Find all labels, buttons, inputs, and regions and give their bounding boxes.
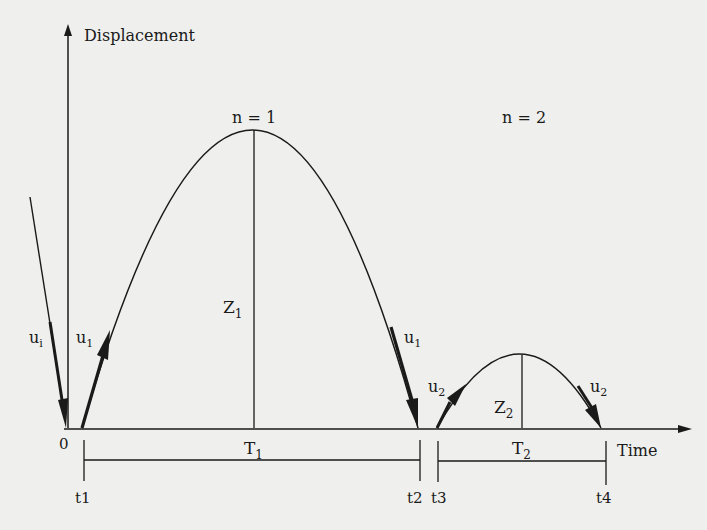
period-2-label: T2 xyxy=(512,438,531,462)
bounce-1-trajectory xyxy=(82,130,418,428)
y-axis-arrow-icon xyxy=(64,24,72,36)
bounce-2-label: n = 2 xyxy=(502,108,546,127)
bounce-2-down-velocity-label: u2 xyxy=(590,377,607,399)
x-axis xyxy=(64,425,692,433)
arrowhead-icon xyxy=(406,398,418,428)
arrowhead-icon xyxy=(58,398,68,428)
time-mark-t1: t1 xyxy=(75,489,91,507)
bounce-1-up-velocity-label: u1 xyxy=(76,328,93,350)
bounce-diagram: Displacement Time 0 n = 1 n = 2 Z1 Z2 T1… xyxy=(0,0,707,530)
time-mark-t4: t4 xyxy=(596,489,612,507)
time-mark-t2: t2 xyxy=(407,489,423,507)
y-axis xyxy=(64,24,72,428)
x-axis-arrow-icon xyxy=(678,425,692,433)
incident-velocity-arrow xyxy=(30,197,68,428)
bounce-2-height-label: Z2 xyxy=(494,397,513,421)
arrowhead-icon xyxy=(585,404,601,428)
incident-velocity-label: ui xyxy=(29,328,43,350)
arrowhead-icon xyxy=(97,330,110,360)
bounce-2-up-velocity-label: u2 xyxy=(428,377,445,399)
bounce-1-label: n = 1 xyxy=(232,108,276,127)
period-1-label: T1 xyxy=(244,438,263,462)
bounce-1-down-velocity-label: u1 xyxy=(404,328,421,350)
x-axis-label: Time xyxy=(617,441,657,460)
origin-label: 0 xyxy=(59,435,69,453)
bounce-1-height-label: Z1 xyxy=(223,297,242,321)
time-mark-t3: t3 xyxy=(431,489,447,507)
y-axis-label: Displacement xyxy=(84,26,195,45)
